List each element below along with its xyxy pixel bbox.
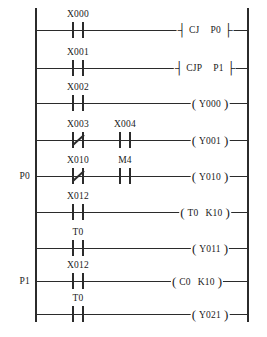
coil-device: C0 [179, 276, 191, 286]
pointer-label-p0: P0 [20, 171, 30, 181]
contact-bar-right-icon [82, 204, 84, 220]
contact-normally-open-x004[interactable] [117, 132, 133, 148]
contact-label-t0: T0 [73, 293, 84, 303]
contact-label-x004: X004 [114, 119, 136, 129]
contact-normally-closed-x003[interactable] [70, 132, 86, 148]
contact-bar-right-icon [82, 240, 84, 256]
coil-c0[interactable]: (C0K10) [171, 275, 223, 288]
coil-paren-open-icon: ( [192, 134, 196, 147]
contact-normally-open-x001[interactable] [70, 60, 86, 76]
coil-paren-close-icon: ) [224, 134, 228, 147]
coil-device: T0 [188, 207, 199, 217]
contact-bar-left-icon [72, 306, 74, 322]
instruction-mnemonic: CJ [189, 25, 199, 35]
contact-label-x010: X010 [67, 155, 89, 165]
contact-bar-left-icon [72, 60, 74, 76]
contact-normally-closed-x010[interactable] [70, 168, 86, 184]
coil-y000[interactable]: (Y000) [191, 97, 230, 110]
contact-bar-left-icon [72, 95, 74, 111]
contact-label-x001: X001 [67, 47, 89, 57]
instruction-cjp[interactable]: ┤CJPP1├ [174, 62, 236, 74]
coil-paren-close-icon: ) [224, 97, 228, 110]
coil-paren-open-icon: ( [192, 308, 196, 321]
coil-preset-value: K10 [198, 276, 215, 286]
contact-normally-open-x000[interactable] [70, 22, 86, 38]
coil-paren-close-icon: ) [224, 308, 228, 321]
coil-y001[interactable]: (Y001) [191, 134, 230, 147]
contact-bar-right-icon [129, 168, 131, 184]
contact-bar-right-icon [82, 60, 84, 76]
contact-bar-right-icon [82, 22, 84, 38]
coil-paren-open-icon: ( [180, 206, 184, 219]
coil-paren-close-icon: ) [224, 170, 228, 183]
coil-device: Y011 [199, 243, 221, 253]
contact-normally-open-x012[interactable] [70, 204, 86, 220]
coil-paren-open-icon: ( [192, 242, 196, 255]
contact-normally-open-m4[interactable] [117, 168, 133, 184]
contact-bar-left-icon [119, 168, 121, 184]
coil-device: Y001 [199, 135, 221, 145]
contact-bar-left-icon [72, 22, 74, 38]
contact-bar-left-icon [72, 204, 74, 220]
power-rail-left [35, 8, 37, 322]
contact-normally-open-x012[interactable] [70, 273, 86, 289]
power-rail-right [247, 8, 249, 322]
contact-normally-open-t0[interactable] [70, 306, 86, 322]
coil-y021[interactable]: (Y021) [191, 308, 230, 321]
contact-label-x012: X012 [67, 260, 89, 270]
contact-bar-left-icon [119, 132, 121, 148]
instruction-cj[interactable]: ┤CJP0├ [177, 24, 234, 36]
coil-device: Y000 [199, 98, 221, 108]
coil-paren-open-icon: ( [192, 97, 196, 110]
instruction-operand: P1 [213, 63, 223, 73]
bracket-close-icon: ├ [227, 62, 236, 74]
coil-paren-close-icon: ) [225, 206, 229, 219]
coil-preset-value: K10 [205, 207, 222, 217]
coil-device: Y010 [199, 171, 221, 181]
contact-label-x003: X003 [67, 119, 89, 129]
coil-y011[interactable]: (Y011) [191, 242, 229, 255]
coil-paren-open-icon: ( [192, 170, 196, 183]
coil-paren-close-icon: ) [218, 275, 222, 288]
instruction-operand: P0 [211, 25, 221, 35]
coil-device: Y021 [199, 309, 221, 319]
coil-paren-open-icon: ( [172, 275, 176, 288]
contact-normally-open-t0[interactable] [70, 240, 86, 256]
contact-label-m4: M4 [118, 155, 132, 165]
pointer-label-p1: P1 [20, 276, 30, 286]
coil-paren-close-icon: ) [224, 242, 228, 255]
contact-bar-right-icon [82, 95, 84, 111]
contact-normally-open-x002[interactable] [70, 95, 86, 111]
contact-label-x000: X000 [67, 9, 89, 19]
bracket-close-icon: ├ [224, 24, 233, 36]
coil-y010[interactable]: (Y010) [191, 170, 230, 183]
contact-label-x002: X002 [67, 82, 89, 92]
ladder-diagram-canvas: X000┤CJP0├X001┤CJPP1├X002(Y000)X003X004(… [0, 0, 267, 337]
contact-label-x012: X012 [67, 191, 89, 201]
bracket-open-icon: ┤ [178, 24, 187, 36]
contact-bar-right-icon [82, 273, 84, 289]
bracket-open-icon: ┤ [175, 62, 184, 74]
instruction-mnemonic: CJP [186, 63, 202, 73]
coil-t0[interactable]: (T0K10) [179, 206, 231, 219]
contact-bar-right-icon [129, 132, 131, 148]
contact-bar-left-icon [72, 273, 74, 289]
contact-bar-right-icon [82, 306, 84, 322]
contact-bar-left-icon [72, 240, 74, 256]
contact-label-t0: T0 [73, 227, 84, 237]
